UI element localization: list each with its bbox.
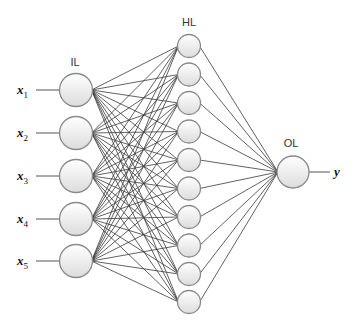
hidden-neuron	[178, 177, 201, 200]
input-variable-label: x3	[16, 168, 29, 186]
output-layer-nodes	[277, 156, 309, 188]
connection-edge	[200, 172, 279, 217]
connection-edge	[92, 217, 179, 261]
hidden-neuron	[178, 63, 201, 86]
connection-edge	[92, 75, 179, 262]
input-neuron	[60, 160, 93, 193]
hidden-layer-nodes	[178, 35, 201, 314]
hidden-neuron	[178, 206, 201, 229]
hidden-output-connections	[200, 46, 279, 302]
hidden-neuron	[178, 35, 201, 58]
connection-edge	[200, 46, 279, 172]
input-neuron	[60, 117, 93, 150]
connection-edge	[92, 189, 179, 262]
connection-edge	[200, 172, 279, 302]
input-variable-label: x2	[16, 125, 28, 143]
input-layer-label: IL	[70, 56, 79, 68]
neural-network-diagram: IL HL OL x1x2x3x4x5y	[0, 0, 354, 330]
hidden-layer-label: HL	[182, 16, 196, 28]
input-neuron	[60, 203, 93, 236]
input-layer-nodes	[60, 74, 93, 278]
hidden-neuron	[178, 263, 201, 286]
hidden-neuron	[178, 120, 201, 143]
input-variable-label: x4	[16, 211, 29, 229]
input-variable-label: x5	[16, 253, 29, 271]
hidden-neuron	[178, 92, 201, 115]
connection-edge	[200, 172, 279, 274]
output-layer-label: OL	[284, 137, 299, 149]
input-variable-label: x1	[16, 82, 28, 100]
output-neuron	[277, 156, 309, 188]
hidden-neuron	[178, 291, 201, 314]
output-variable-label: y	[332, 164, 340, 179]
input-hidden-connections	[92, 46, 179, 302]
connection-edge	[200, 172, 279, 246]
input-neuron	[60, 74, 93, 107]
connection-edge	[200, 75, 279, 173]
hidden-neuron	[178, 234, 201, 257]
connection-edge	[92, 46, 179, 176]
hidden-neuron	[178, 149, 201, 172]
connection-edge	[92, 75, 179, 91]
connection-edge	[200, 172, 279, 189]
input-neuron	[60, 245, 93, 278]
connection-edge	[92, 219, 179, 302]
